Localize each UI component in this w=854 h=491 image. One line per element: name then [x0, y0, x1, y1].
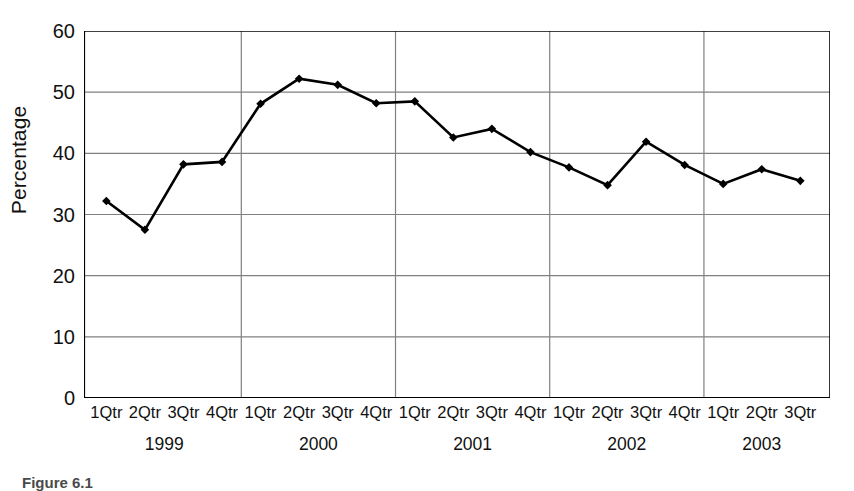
x-axis-year-label: 2001: [428, 436, 518, 454]
y-axis-tick-label: 50: [29, 82, 75, 102]
figure-caption: Figure 6.1: [22, 474, 93, 491]
plot-area: [84, 31, 830, 398]
y-axis-tick-label: 10: [29, 327, 75, 347]
x-axis-year-label: 2003: [717, 436, 807, 454]
x-axis-year-label: 2002: [582, 436, 672, 454]
y-axis-tick-label: 20: [29, 266, 75, 286]
y-axis-tick-label: 60: [29, 21, 75, 41]
y-axis-tick-label: 0: [29, 388, 75, 408]
x-axis-tick-label: 3Qtr: [772, 404, 828, 421]
data-point-markers: [102, 74, 805, 234]
y-axis-title: Percentage: [7, 90, 31, 230]
horizontal-gridlines: [84, 92, 830, 337]
x-axis-year-label: 1999: [119, 436, 209, 454]
y-axis-tick-label: 30: [29, 205, 75, 225]
data-series-line: [106, 79, 800, 230]
y-axis-tick-label: 40: [29, 143, 75, 163]
x-axis-year-label: 2000: [273, 436, 363, 454]
chart-canvas: [84, 31, 830, 398]
